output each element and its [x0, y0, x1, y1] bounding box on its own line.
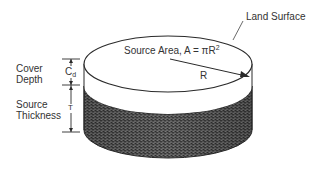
cover-depth-symbol-subscript: d — [72, 71, 76, 78]
land-surface-leader — [233, 21, 243, 40]
radius-label: R — [200, 71, 207, 81]
source-thickness-line2: Thickness — [16, 110, 61, 121]
cover-depth-label: Cover Depth — [16, 63, 43, 85]
source-thickness-line1: Source — [16, 99, 61, 110]
source-area-exponent: 2 — [216, 44, 220, 51]
source-cylinder-diagram: Land Surface Source Area, A = πR2 R Cove… — [0, 0, 318, 174]
source-area-formula: Source Area, A = πR — [124, 45, 216, 56]
source-thickness-symbol: T — [68, 103, 73, 113]
source-thickness-label: Source Thickness — [16, 99, 61, 121]
cover-depth-symbol: Cd — [65, 67, 76, 77]
cylinder-graphic — [0, 0, 318, 174]
cover-depth-line2: Depth — [16, 74, 43, 85]
cover-depth-line1: Cover — [16, 63, 43, 74]
land-surface-label: Land Surface — [246, 12, 306, 22]
source-area-label: Source Area, A = πR2 — [124, 46, 220, 56]
